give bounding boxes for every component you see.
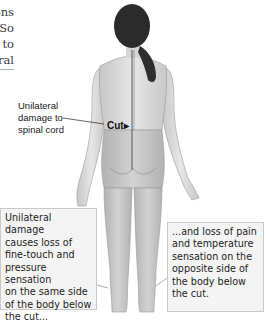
torso-upper [99, 56, 166, 130]
right-arm [162, 68, 199, 200]
callout-opposite-side-loss: ...and loss of pain and temperature sens… [167, 222, 264, 312]
damage-label: Unilateral damage to spinal cord [18, 100, 64, 136]
head-hair [114, 4, 150, 48]
callout-same-side-loss: Unilateral damage causes loss of fine-to… [0, 208, 97, 310]
left-leg-shaded [104, 188, 132, 312]
cut-label: Cut▸ [107, 120, 129, 131]
left-callout-pointer [97, 285, 108, 288]
torso-lower-shaded [102, 130, 165, 188]
arrow-right-icon: ▸ [124, 120, 129, 131]
right-callout-pointer [156, 278, 167, 286]
right-leg-shaded [134, 188, 162, 312]
